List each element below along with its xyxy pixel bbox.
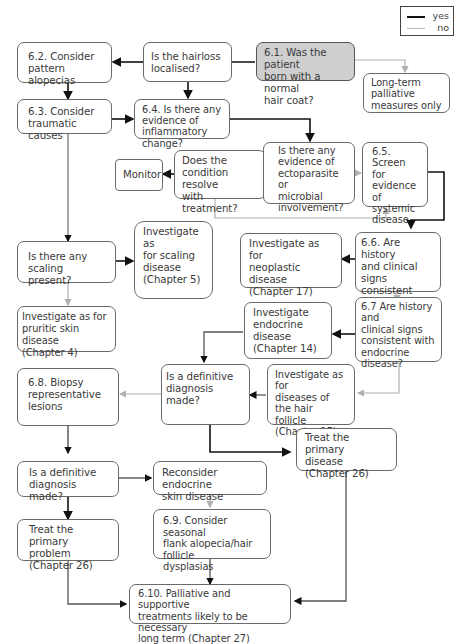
node-text: dysplasias — [163, 561, 261, 573]
legend-yes-label: yes — [433, 10, 449, 22]
node-text: evidence of — [278, 156, 340, 167]
node-text: Is the hairloss — [151, 51, 224, 63]
node-text: neoplastic disease — [249, 262, 333, 286]
node-text: Investigate as for — [249, 238, 333, 262]
edge-61-longterm — [355, 60, 405, 72]
node-text: disease — [372, 214, 418, 225]
node-text: Investigate — [253, 307, 323, 319]
edge-64-ecto — [229, 119, 310, 141]
node-neoplastic-ch17: Investigate as forneoplastic disease(Cha… — [240, 233, 342, 288]
node-text: 6.1. Was the patient — [264, 47, 347, 71]
node-text: pruritic skin disease — [22, 323, 111, 347]
node-text: evidence — [372, 180, 418, 191]
node-text: diagnosis made? — [166, 383, 245, 407]
node-text: Long-term — [371, 77, 442, 88]
node-treat-primary-disease-ch26: Treat the primarydisease(Chapter 26) — [296, 428, 397, 471]
node-text: diagnosis made? — [29, 479, 107, 503]
node-text: representative lesions — [28, 389, 108, 413]
node-text: skin disease — [162, 491, 258, 503]
node-monitor: Monitor — [115, 159, 163, 191]
node-definitive-diagnosis-2: Is a definitivediagnosis made? — [17, 461, 119, 497]
node-text: with treatment? — [182, 191, 258, 215]
node-text: problem — [29, 548, 107, 560]
node-text: endocrine disease — [253, 319, 323, 343]
node-6-4-inflammatory-change: 6.4. Is there anyevidence ofinflammatory… — [134, 99, 230, 139]
node-text: Monitor — [123, 169, 155, 181]
node-text: diseases of the hair — [275, 392, 347, 415]
node-text: 6.4. Is there any — [142, 104, 222, 115]
node-6-8-biopsy: 6.8. Biopsyrepresentative lesions — [17, 368, 119, 426]
node-text: condition resolve — [182, 167, 258, 191]
legend-no-label: no — [437, 22, 449, 34]
node-text: of systemic — [372, 192, 418, 215]
node-text: 6.6. Are history — [361, 237, 435, 261]
node-text: 6.5. — [372, 146, 418, 157]
node-text: ectoparasite or — [278, 168, 340, 191]
node-text: for scaling — [143, 250, 204, 262]
node-text: (Chapter 14) — [253, 343, 323, 355]
legend-yes-swatch — [407, 16, 425, 18]
node-text: (Chapter 4) — [22, 347, 111, 359]
node-text: inflammatory change? — [142, 126, 222, 148]
node-text: Is a definitive — [166, 371, 245, 383]
node-6-2-pattern-alopecias: 6.2. Considerpattern alopecias — [17, 42, 112, 83]
node-text: (Chapter 17) — [249, 286, 333, 298]
node-text: hair coat? — [264, 95, 347, 107]
node-text: Investigate as for — [22, 311, 111, 323]
node-reconsider-endocrine: Reconsider endocrineskin disease — [153, 461, 267, 495]
node-definitive-diagnosis-1: Is a definitivediagnosis made? — [161, 364, 250, 425]
node-text: follicle — [275, 415, 347, 426]
node-text: Investigate as for — [275, 369, 347, 392]
node-text: disease — [143, 262, 204, 274]
node-scaling-present: Is there any scalingpresent? — [17, 241, 116, 283]
node-6-3-traumatic-causes: 6.3. Considertraumatic causes — [17, 99, 112, 134]
node-text: 6.8. Biopsy — [28, 377, 108, 389]
node-text: evidence of — [142, 115, 222, 126]
node-text: measures only — [371, 100, 442, 111]
node-text: Reconsider endocrine — [162, 467, 258, 491]
node-treat-primary-problem-ch26: Treat the primaryproblem(Chapter 26) — [17, 519, 119, 561]
node-condition-resolve: Does thecondition resolvewith treatment? — [174, 150, 266, 199]
node-text: (Chapter 26) — [305, 468, 388, 480]
node-hairloss-localised: Is the hairlosslocalised? — [143, 42, 232, 82]
node-text: long term (Chapter 27) — [138, 633, 282, 644]
edge-endocrine-definitive1 — [204, 332, 243, 362]
node-text: flank alopecia/hair follicle — [163, 538, 261, 561]
node-text: 6.7 Are history and — [361, 301, 436, 324]
node-text: born with a normal — [264, 71, 347, 95]
node-text: (Chapter 26) — [29, 560, 107, 572]
node-6-6-neoplasia: 6.6. Are historyand clinical signsconsis… — [355, 232, 441, 292]
node-6-9-seasonal-flank-alopecia: 6.9. Consider seasonalflank alopecia/hai… — [153, 509, 271, 559]
node-text: clinical signs — [361, 324, 436, 335]
node-text: 6.3. Consider — [28, 106, 101, 118]
node-scaling-disease-ch5: Investigate asfor scalingdisease(Chapter… — [134, 221, 213, 299]
node-text: 6.9. Consider seasonal — [163, 515, 261, 538]
node-text: 6.10. Palliative and supportive — [138, 588, 282, 611]
node-text: microbial — [278, 191, 340, 202]
node-6-1-normal-hair-coat: 6.1. Was the patientborn with a normalha… — [256, 42, 355, 81]
legend-no-swatch — [407, 28, 425, 29]
node-text: Is a definitive — [29, 467, 107, 479]
node-text: disease — [305, 456, 388, 468]
node-text: treatments likely to be necessary — [138, 611, 282, 634]
node-endocrine-ch14: Investigateendocrine disease(Chapter 14) — [244, 302, 332, 359]
node-text: Is there any — [278, 145, 340, 156]
node-text: Screen for — [372, 157, 418, 180]
node-text: present? — [28, 275, 105, 287]
node-text: and clinical signs — [361, 261, 435, 285]
node-6-7-endocrine: 6.7 Are history andclinical signsconsist… — [355, 297, 442, 362]
node-text: 6.2. Consider — [28, 51, 101, 63]
node-text: localised? — [151, 63, 224, 75]
node-text: disease? — [361, 358, 436, 369]
edge-treatdisease-610 — [295, 470, 346, 601]
node-text: traumatic causes — [28, 118, 101, 142]
node-text: Treat the primary — [29, 524, 107, 548]
node-text: Treat the primary — [305, 432, 388, 456]
node-text: Is there any scaling — [28, 251, 105, 275]
legend-no: no — [405, 22, 451, 34]
legend-yes: yes — [405, 10, 451, 22]
node-text: consistent with — [361, 335, 436, 346]
node-6-5-systemic-disease: 6.5.Screen forevidenceof systemicdisease — [362, 142, 428, 207]
node-hair-follicle-ch15: Investigate as fordiseases of the hairfo… — [267, 364, 355, 425]
node-text: (Chapter 5) — [143, 274, 204, 286]
